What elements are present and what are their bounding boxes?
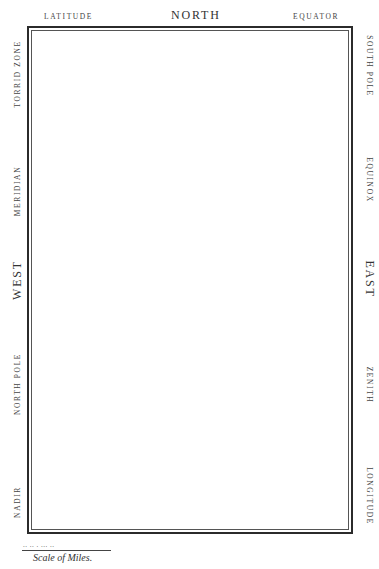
right-label-equinox: EQUINOX <box>365 157 374 202</box>
left-label-nadir: NADIR <box>13 486 22 518</box>
right-label-zenith: ZENITH <box>365 367 374 404</box>
scale-marks: .. .. . ... .. <box>23 541 55 549</box>
left-label-meridian: MERIDIAN <box>13 166 22 216</box>
left-label-north-pole: NORTH POLE <box>13 353 22 415</box>
scale-caption: Scale of Miles. <box>33 552 92 563</box>
left-label-west: WEST <box>10 260 25 300</box>
right-label-south-pole: SOUTH POLE <box>365 35 374 97</box>
left-label-torrid-zone: TORRID ZONE <box>13 40 22 107</box>
right-label-east: EAST <box>362 260 377 297</box>
scale-bar <box>22 550 111 551</box>
top-label-equator: EQUATOR <box>293 12 339 21</box>
top-label-latitude: LATITUDE <box>44 12 93 21</box>
map-frame-inner <box>31 30 349 530</box>
top-label-north: NORTH <box>171 8 221 23</box>
right-label-longitude: LONGITUDE <box>365 467 374 525</box>
